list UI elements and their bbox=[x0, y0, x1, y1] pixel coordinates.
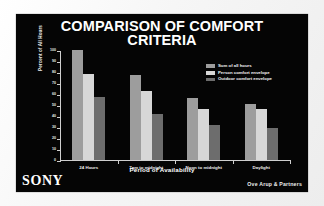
legend-label: Outdoor comfort envelope bbox=[218, 77, 272, 81]
bar-group bbox=[72, 50, 105, 160]
legend-label: Sum of all hours bbox=[218, 64, 252, 68]
title-line-2: CRITERIA bbox=[16, 33, 308, 47]
x-tick bbox=[175, 160, 176, 164]
x-axis-title: Period of Availability bbox=[16, 166, 308, 173]
y-tick-label: 10 bbox=[52, 148, 56, 152]
x-tick bbox=[118, 160, 119, 164]
page-title: COMPARISON OF COMFORT CRITERIA bbox=[16, 19, 308, 47]
y-tick bbox=[57, 51, 61, 52]
bar bbox=[83, 74, 94, 160]
y-tick-label: 100 bbox=[50, 49, 56, 53]
credit-text: Ove Arup & Partners bbox=[247, 181, 302, 187]
y-tick bbox=[57, 117, 61, 118]
y-tick-label: 20 bbox=[52, 137, 56, 141]
bar bbox=[94, 97, 105, 160]
bar bbox=[130, 75, 141, 160]
y-tick-label: 50 bbox=[52, 104, 56, 108]
bar bbox=[72, 50, 83, 160]
bar-group bbox=[245, 104, 278, 160]
y-axis-title: Percent of All Hours bbox=[38, 25, 43, 71]
y-tick-label: 0 bbox=[54, 159, 56, 163]
bar bbox=[256, 109, 267, 160]
bar bbox=[209, 125, 220, 160]
x-tick bbox=[290, 160, 291, 164]
y-tick-label: 30 bbox=[52, 126, 56, 130]
chart-legend: Sum of all hoursPerson comfort envelopeO… bbox=[206, 64, 272, 84]
y-tick bbox=[57, 150, 61, 151]
photo-frame: COMPARISON OF COMFORT CRITERIA Percent o… bbox=[0, 0, 324, 206]
y-tick-label: 70 bbox=[52, 82, 56, 86]
y-tick-label: 60 bbox=[52, 93, 56, 97]
bar-group bbox=[130, 75, 163, 160]
y-tick-label: 80 bbox=[52, 71, 56, 75]
legend-label: Person comfort envelope bbox=[218, 71, 270, 75]
bar-group bbox=[187, 98, 220, 160]
bar bbox=[198, 109, 209, 160]
bar bbox=[245, 104, 256, 160]
legend-item: Person comfort envelope bbox=[206, 71, 272, 75]
legend-swatch bbox=[206, 64, 215, 68]
y-tick bbox=[57, 161, 61, 162]
y-tick bbox=[57, 84, 61, 85]
sony-logo: SONY bbox=[22, 174, 63, 188]
bar bbox=[187, 98, 198, 160]
y-tick bbox=[57, 128, 61, 129]
y-tick bbox=[57, 106, 61, 107]
y-tick bbox=[57, 95, 61, 96]
legend-swatch bbox=[206, 78, 215, 82]
presentation-slide: COMPARISON OF COMFORT CRITERIA Percent o… bbox=[16, 14, 308, 192]
bar bbox=[152, 114, 163, 160]
y-tick-label: 40 bbox=[52, 115, 56, 119]
legend-item: Sum of all hours bbox=[206, 64, 272, 68]
bar bbox=[141, 91, 152, 160]
y-tick bbox=[57, 62, 61, 63]
legend-swatch bbox=[206, 71, 215, 75]
y-tick-label: 90 bbox=[52, 60, 56, 64]
bar bbox=[267, 128, 278, 160]
y-tick bbox=[57, 139, 61, 140]
legend-item: Outdoor comfort envelope bbox=[206, 77, 272, 81]
x-tick bbox=[233, 160, 234, 164]
y-tick bbox=[57, 73, 61, 74]
